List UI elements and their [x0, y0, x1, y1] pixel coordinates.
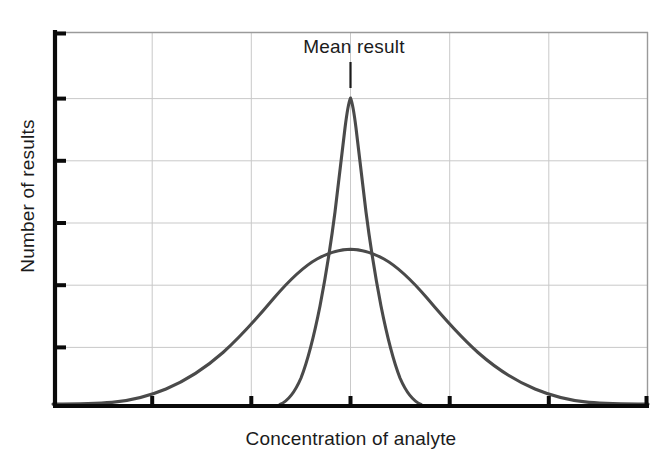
distribution-chart-figure: Mean result Number of results Concentrat…: [0, 0, 663, 465]
mean-result-annotation-label: Mean result: [234, 36, 474, 58]
plot-canvas: [0, 0, 663, 465]
x-axis-title: Concentration of analyte: [53, 428, 649, 450]
y-axis-title: Number of results: [17, 86, 39, 306]
